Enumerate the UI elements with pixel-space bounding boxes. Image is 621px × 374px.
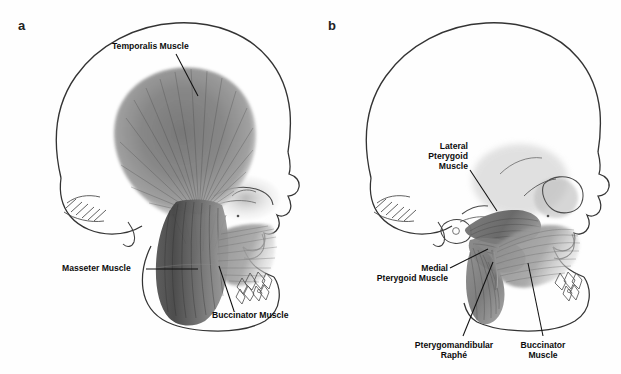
anatomy-figure: a b Temporalis Muscle Masseter Muscle Bu… (0, 0, 621, 374)
label-temporalis-muscle: Temporalis Muscle (112, 41, 189, 51)
occipital-suture-hatching-a (64, 196, 106, 222)
label-masseter-muscle: Masseter Muscle (62, 263, 131, 273)
skull-illustration (0, 0, 621, 374)
mastoid-process-a (123, 222, 135, 246)
label-line: Medial (358, 263, 448, 273)
infraorbital-foramen-a (237, 215, 240, 218)
label-lateral-pterygoid-muscle: Lateral Pterygoid Muscle (368, 141, 468, 172)
panel-letter-a: a (18, 19, 25, 32)
label-line: Pterygoid Muscle (358, 273, 448, 283)
label-medial-pterygoid-muscle: Medial Pterygoid Muscle (358, 263, 448, 283)
label-line: Buccinator (498, 340, 588, 350)
label-buccinator-muscle: Buccinator Muscle (212, 310, 288, 320)
label-buccinator-muscle-b: Buccinator Muscle (498, 340, 588, 360)
label-line: Lateral (368, 141, 468, 151)
occipital-suture-hatching-b (374, 196, 416, 222)
label-line: Pterygoid (368, 151, 468, 161)
zygomatic-stub-b (462, 206, 488, 214)
panel-a-skull (56, 23, 299, 331)
occiput-outline-b (370, 178, 452, 234)
label-line: Masseter Muscle (62, 263, 131, 273)
occiput-outline-a (60, 178, 142, 234)
label-line: Muscle (368, 161, 468, 171)
label-line: Muscle (498, 350, 588, 360)
label-line: Temporalis Muscle (112, 41, 189, 51)
panel-b-skull (366, 23, 609, 331)
label-line: Buccinator Muscle (212, 310, 288, 320)
condyle-head-b (453, 228, 460, 235)
panel-letter-b: b (328, 19, 336, 32)
buccinator-muscle-a (216, 224, 277, 286)
infraorbital-foramen-b (547, 215, 550, 218)
